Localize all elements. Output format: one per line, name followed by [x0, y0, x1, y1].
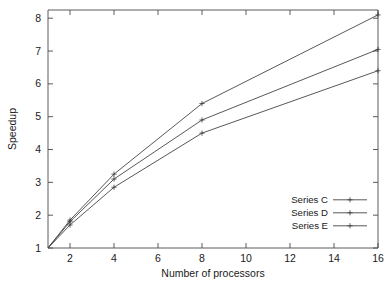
series-line-series-d [48, 49, 378, 248]
chart-legend: Series CSeries DSeries E [291, 194, 367, 231]
x-tick-label: 10 [240, 252, 252, 264]
data-point-marker [199, 131, 204, 136]
speedup-line-chart: 246810121416 12345678 Number of processo… [0, 0, 392, 289]
data-point-marker [375, 12, 380, 17]
chart-canvas: 246810121416 12345678 Number of processo… [0, 0, 392, 289]
x-axis-title: Number of processors [161, 267, 264, 279]
legend-label-series-e: Series E [292, 220, 328, 231]
data-series-group [48, 12, 381, 248]
x-tick-label: 4 [111, 252, 117, 264]
data-point-marker [375, 68, 380, 73]
y-tick-label: 6 [35, 77, 41, 89]
y-tick-label: 5 [35, 110, 41, 122]
x-tick-label: 8 [199, 252, 205, 264]
x-tick-label: 12 [284, 252, 296, 264]
series-line-series-e [48, 71, 378, 248]
y-tick-label: 4 [35, 143, 41, 155]
legend-label-series-d: Series D [291, 207, 328, 218]
x-tick-label: 16 [372, 252, 384, 264]
series-line-series-c [48, 15, 378, 248]
y-tick-label: 1 [35, 242, 41, 254]
data-point-marker [199, 117, 204, 122]
y-axis-title: Speedup [6, 108, 18, 150]
x-tick-label: 6 [155, 252, 161, 264]
y-tick-label: 7 [35, 45, 41, 57]
y-tick-label: 8 [35, 12, 41, 24]
legend-label-series-c: Series C [291, 194, 328, 205]
y-tick-label: 3 [35, 176, 41, 188]
x-tick-label: 14 [328, 252, 340, 264]
y-tick-label: 2 [35, 209, 41, 221]
x-tick-label: 2 [67, 252, 73, 264]
